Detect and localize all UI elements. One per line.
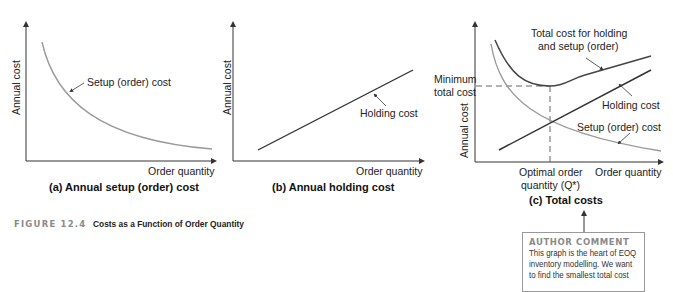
chart-c-x-label: Order quantity: [595, 166, 662, 178]
chart-c-setup-arrow: [619, 133, 630, 143]
chart-c-min-label-1: Minimum: [434, 73, 477, 85]
chart-b-label-arrow: [375, 95, 386, 106]
chart-c-optimal-label-2: quantity (Q*): [521, 179, 580, 191]
figure-caption: FIGURE 12.4 Costs as a Function of Order…: [14, 218, 265, 229]
chart-c-total-label-1: Total cost for holding: [531, 27, 627, 39]
chart-c-caption: (c) Total costs: [529, 194, 603, 206]
chart-a-x-label: Order quantity: [148, 165, 215, 177]
author-comment-line: This graph is the heart of EOQ: [529, 248, 630, 259]
figure-number: FIGURE 12.4: [14, 219, 86, 229]
chart-b-line-label: Holding cost: [360, 107, 418, 119]
author-comment-line: inventory modelling. We want: [529, 259, 630, 270]
chart-c-holding-arrow: [620, 85, 632, 96]
chart-c-total-arrow: [586, 58, 602, 69]
chart-b-caption: (b) Annual holding cost: [272, 181, 395, 193]
author-comment-box: AUTHOR COMMENT This graph is the heart o…: [522, 232, 645, 292]
chart-c-total-label-2: and setup (order): [538, 40, 619, 52]
chart-a-setup-curve: [42, 42, 212, 149]
figure-title: Costs as a Function of Order Quantity: [93, 218, 244, 229]
chart-b-x-label: Order quantity: [356, 165, 423, 177]
chart-c-optimal-label-1: Optimal order: [519, 166, 583, 178]
chart-c-total-costs: Total cost for holding and setup (order)…: [434, 24, 662, 206]
chart-a-setup-cost: Setup (order) cost Annual cost Order qua…: [10, 24, 215, 193]
chart-a-curve-label: Setup (order) cost: [87, 76, 171, 88]
author-comment-heading: AUTHOR COMMENT: [529, 237, 639, 248]
chart-a-caption: (a) Annual setup (order) cost: [49, 181, 199, 193]
chart-a-y-label: Annual cost: [10, 60, 22, 115]
chart-a-label-arrow: [71, 83, 84, 91]
chart-b-y-label: Annual cost: [221, 60, 233, 115]
chart-c-y-label: Annual cost: [458, 103, 470, 158]
author-comment-line: to find the smallest total cost: [529, 270, 630, 281]
chart-c-holding-label: Holding cost: [602, 99, 660, 111]
chart-c-setup-label: Setup (order) cost: [577, 121, 661, 133]
chart-c-min-label-2: total cost: [434, 86, 476, 98]
chart-b-holding-cost: Holding cost Annual cost Order quantity …: [221, 24, 423, 193]
